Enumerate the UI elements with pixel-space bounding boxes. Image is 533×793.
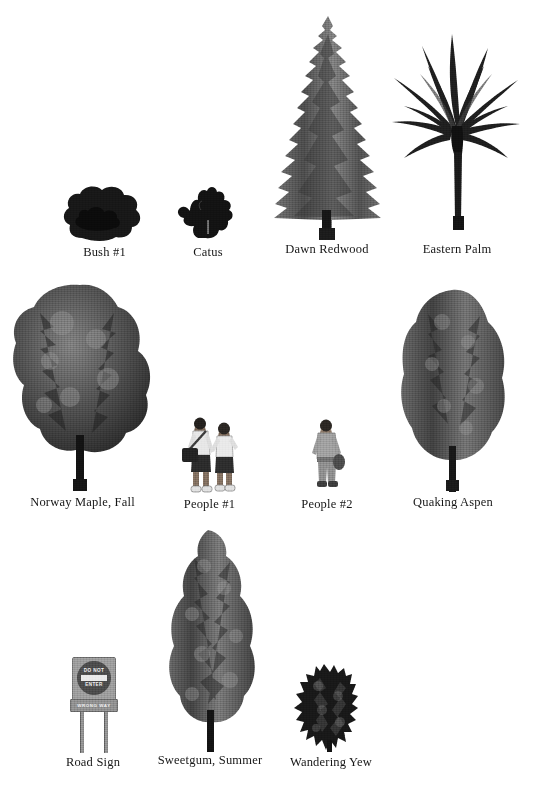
specimen-label: Eastern Palm [392,242,522,257]
specimen-label: Road Sign [38,755,148,770]
specimen-label: Sweetgum, Summer [148,753,272,768]
clipped-header-text: ··· ·· ···· ·· ······ ·· ··· [0,0,533,3]
wandering-yew-image [276,662,386,753]
people-2-image [272,415,382,495]
specimen-norway-maple-fall: Norway Maple, Fall [10,283,155,510]
specimen-sweetgum-summer: Sweetgum, Summer [148,528,272,768]
specimen-label: People #1 [162,497,257,512]
yew-shrub-silhouette-icon [276,662,386,753]
two-people-icon [162,415,257,495]
specimen-wandering-yew: Wandering Yew [276,662,386,770]
bush-1-image [52,180,157,242]
specimen-people-2: People #2 [272,415,382,512]
specimen-label: Norway Maple, Fall [10,495,155,510]
specimen-eastern-palm: Eastern Palm [392,14,522,257]
bush-silhouette-icon [52,180,157,242]
do-not-enter-sign-face: DO NOT ENTER [77,661,111,695]
sweetgum-image [148,528,272,753]
people-1-image [162,415,257,495]
specimen-label: Dawn Redwood [262,242,392,257]
specimen-road-sign: DO NOT ENTER WRONG WAY Road Sign [38,655,148,770]
specimen-label: Quaking Aspen [388,495,518,510]
sign-line-2: ENTER [85,683,103,688]
specimen-bush-1: Bush #1 [52,180,157,260]
cactus-silhouette-icon [162,180,254,242]
specimen-dawn-redwood: Dawn Redwood [262,14,392,257]
broadleaf-silhouette-icon [10,283,155,495]
dawn-redwood-image [262,14,392,242]
specimen-label: Bush #1 [52,245,157,260]
conifer-silhouette-icon [262,14,392,242]
road-sign-image: DO NOT ENTER WRONG WAY [38,655,148,753]
specimen-people-1: People #1 [162,415,257,512]
specimen-label: Wandering Yew [276,755,386,770]
single-person-icon [272,415,382,495]
sign-line-1: DO NOT [84,669,104,674]
specimen-catus: Catus [162,180,254,260]
vegetation-reference-sheet: ··· ·· ···· ·· ······ ·· ··· Bush #1 Cat… [0,0,533,793]
specimen-label: People #2 [272,497,382,512]
columnar-tree-silhouette-icon [388,288,518,495]
catus-image [162,180,254,242]
norway-maple-image [10,283,155,495]
pyramidal-tree-silhouette-icon [148,528,272,753]
wrong-way-plaque: WRONG WAY [70,699,118,712]
palm-silhouette-icon [392,14,522,242]
eastern-palm-image [392,14,522,242]
quaking-aspen-image [388,288,518,495]
sign-white-bar [81,675,107,681]
sign-backing-plate: DO NOT ENTER [72,657,116,701]
specimen-label: Catus [162,245,254,260]
specimen-quaking-aspen: Quaking Aspen [388,288,518,510]
